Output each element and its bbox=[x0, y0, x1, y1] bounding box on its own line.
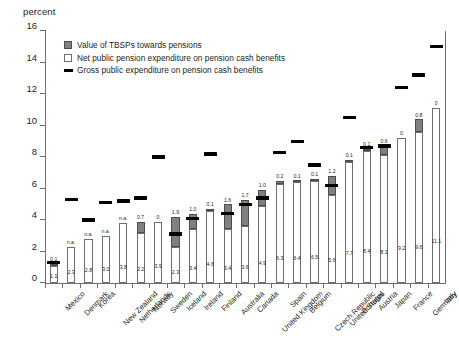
bar-segment-net[interactable] bbox=[328, 195, 336, 283]
gross-expenditure-marker bbox=[378, 144, 391, 147]
bar-value-net: 3.8 bbox=[120, 265, 127, 270]
y-axis-label: 16 bbox=[26, 20, 37, 31]
bar-segment-net[interactable] bbox=[276, 184, 284, 283]
bar-value-tbsp: 0.1 bbox=[311, 172, 318, 177]
bar-group[interactable]: 5.61.2 bbox=[328, 31, 336, 283]
legend-swatch-gross-icon bbox=[64, 69, 73, 72]
bar-value-net: 3.6 bbox=[241, 265, 248, 270]
bar-group[interactable]: 1.10.1 bbox=[50, 31, 58, 283]
bar-group[interactable]: 8.40.1 bbox=[363, 31, 371, 283]
gross-expenditure-marker bbox=[291, 140, 304, 143]
bar-value-tbsp: 0.1 bbox=[294, 174, 301, 179]
gross-expenditure-marker bbox=[82, 218, 95, 221]
legend-item-tbsp: Value of TBSPs towards pensions bbox=[64, 39, 285, 52]
bar-value-net: 6.5 bbox=[311, 255, 318, 260]
bar-value-net: 3.4 bbox=[189, 266, 196, 271]
bar-segment-tbsp[interactable] bbox=[276, 181, 284, 184]
gross-expenditure-marker bbox=[343, 116, 356, 119]
y-axis-label: 8 bbox=[32, 146, 37, 157]
gross-expenditure-marker bbox=[308, 163, 321, 166]
y-axis-tick bbox=[40, 93, 46, 94]
bar-segment-net[interactable] bbox=[154, 222, 162, 283]
bar-value-net: 4.6 bbox=[207, 262, 214, 267]
x-axis-tick bbox=[236, 283, 237, 288]
gross-expenditure-marker bbox=[99, 201, 112, 204]
bar-segment-net[interactable] bbox=[67, 247, 75, 283]
y-axis-tick bbox=[40, 156, 46, 157]
plot-right-border bbox=[445, 31, 446, 283]
bar-value-net: 6.3 bbox=[276, 256, 283, 261]
bar-segment-net[interactable] bbox=[397, 138, 405, 283]
y-axis-title: percent bbox=[23, 6, 55, 17]
bar-segment-net[interactable] bbox=[137, 233, 145, 283]
bar-value-tbsp: n.a. bbox=[119, 216, 128, 221]
bar-segment-tbsp[interactable] bbox=[137, 222, 145, 233]
bar-segment-tbsp[interactable] bbox=[206, 209, 214, 211]
x-axis-tick bbox=[132, 283, 133, 288]
x-axis-tick bbox=[323, 283, 324, 288]
bar-segment-tbsp[interactable] bbox=[224, 204, 232, 229]
bar-value-net: 3.2 bbox=[137, 267, 144, 272]
bar-segment-tbsp[interactable] bbox=[293, 180, 301, 182]
gross-expenditure-marker bbox=[221, 212, 234, 215]
bar-value-tbsp: 1.0 bbox=[259, 183, 266, 188]
bar-segment-tbsp[interactable] bbox=[345, 160, 353, 162]
bar-group[interactable]: 6.50.1 bbox=[310, 31, 318, 283]
gross-expenditure-marker bbox=[395, 86, 408, 89]
x-axis-tick bbox=[167, 283, 168, 288]
bar-group[interactable]: 7.70.1 bbox=[345, 31, 353, 283]
x-axis-tick bbox=[184, 283, 185, 288]
x-axis-tick bbox=[254, 283, 255, 288]
x-axis-tick bbox=[80, 283, 81, 288]
bar-segment-net[interactable] bbox=[380, 155, 388, 283]
bar-segment-net[interactable] bbox=[363, 151, 371, 283]
bar-segment-net[interactable] bbox=[432, 108, 440, 283]
bar-value-tbsp: 0 bbox=[435, 101, 438, 106]
bar-segment-net[interactable] bbox=[345, 162, 353, 283]
bar-segment-net[interactable] bbox=[415, 132, 423, 283]
gross-expenditure-marker bbox=[325, 184, 338, 187]
bar-segment-net[interactable] bbox=[119, 223, 127, 283]
gross-expenditure-marker bbox=[117, 199, 130, 202]
bar-value-tbsp: 1.2 bbox=[328, 169, 335, 174]
bar-group[interactable]: 11.10 bbox=[432, 31, 440, 283]
bar-segment-net[interactable] bbox=[310, 181, 318, 283]
bar-value-net: 7.7 bbox=[346, 251, 353, 256]
x-axis-tick bbox=[271, 283, 272, 288]
y-axis-label: 10 bbox=[26, 114, 37, 125]
x-axis-tick bbox=[62, 283, 63, 288]
bar-segment-net[interactable] bbox=[171, 247, 179, 283]
bar-value-net: 2.3 bbox=[67, 270, 74, 275]
bar-value-net: 3.9 bbox=[154, 264, 161, 269]
bar-value-net: 9.6 bbox=[415, 245, 422, 250]
bar-segment-net[interactable] bbox=[206, 211, 214, 283]
bar-value-net: 9.2 bbox=[398, 246, 405, 251]
y-axis-label: 12 bbox=[26, 83, 37, 94]
bar-group[interactable]: 9.20 bbox=[397, 31, 405, 283]
bar-value-net: 5.6 bbox=[328, 258, 335, 263]
bar-segment-tbsp[interactable] bbox=[415, 119, 423, 132]
bar-value-net: 3.0 bbox=[102, 267, 109, 272]
bar-value-net: 8.1 bbox=[381, 250, 388, 255]
bar-segment-net[interactable] bbox=[241, 226, 249, 283]
legend-swatch-net-icon bbox=[64, 54, 72, 62]
bar-segment-net[interactable] bbox=[224, 229, 232, 283]
bar-segment-net[interactable] bbox=[293, 182, 301, 283]
bar-group[interactable]: 6.40.1 bbox=[293, 31, 301, 283]
bar-group[interactable]: 8.10.6 bbox=[380, 31, 388, 283]
bar-value-tbsp: 1.7 bbox=[241, 193, 248, 198]
bar-segment-net[interactable] bbox=[258, 206, 266, 283]
gross-expenditure-marker bbox=[204, 152, 217, 155]
gross-expenditure-marker bbox=[186, 217, 199, 220]
x-axis-tick bbox=[358, 283, 359, 288]
y-axis-tick bbox=[40, 219, 46, 220]
bar-segment-net[interactable] bbox=[102, 236, 110, 283]
bar-value-net: 3.4 bbox=[224, 266, 231, 271]
bar-segment-net[interactable] bbox=[84, 239, 92, 283]
gross-expenditure-marker bbox=[65, 198, 78, 201]
x-axis-tick bbox=[149, 283, 150, 288]
bar-segment-tbsp[interactable] bbox=[310, 179, 318, 181]
bar-value-tbsp: 0 bbox=[400, 131, 403, 136]
bar-segment-net[interactable] bbox=[189, 229, 197, 283]
bar-group[interactable]: 9.60.8 bbox=[415, 31, 423, 283]
